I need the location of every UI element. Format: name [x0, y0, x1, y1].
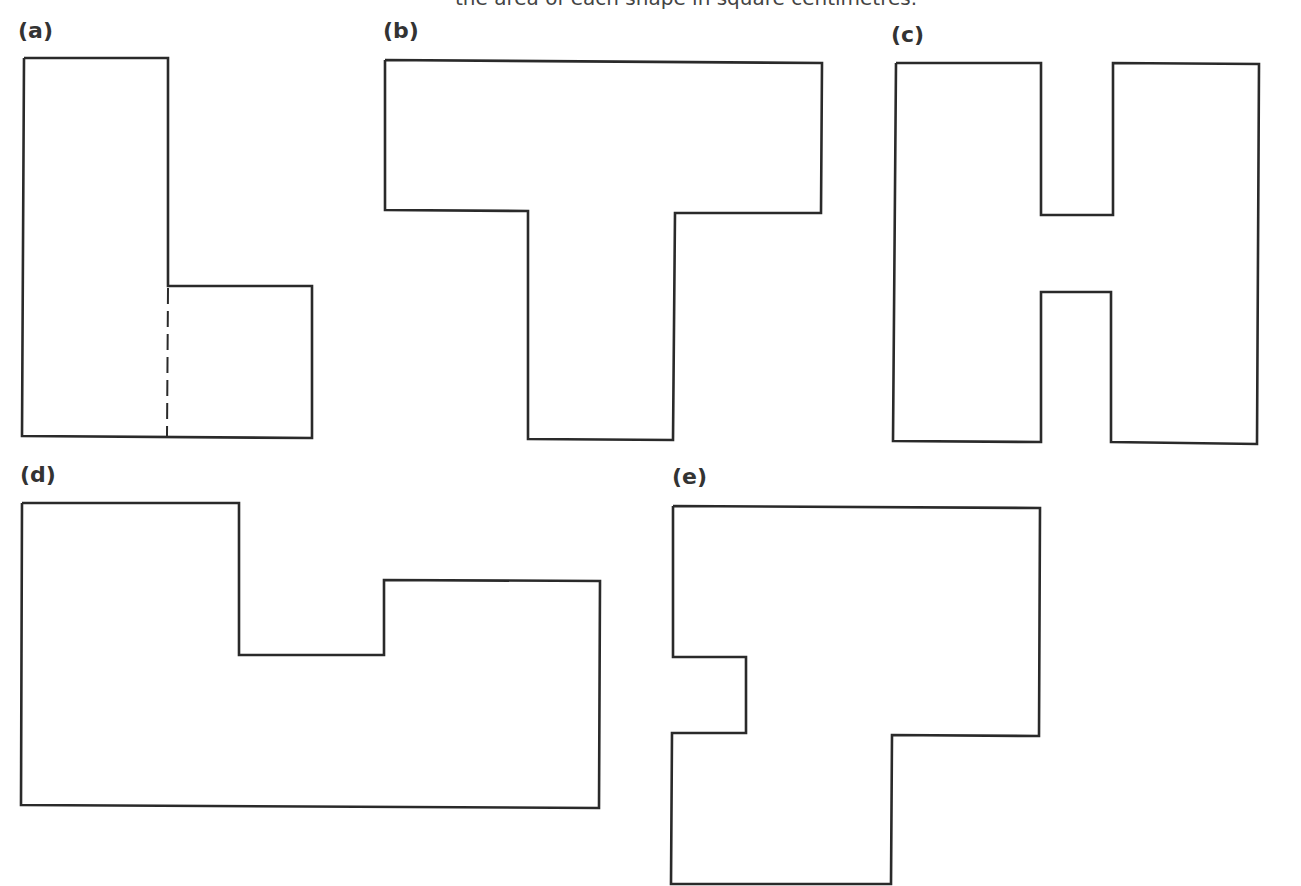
shapes-canvas [0, 0, 1301, 886]
shape-b-t-shape [385, 60, 822, 440]
shape-a-dashed-divider [167, 288, 168, 436]
shape-c-h-shape [893, 63, 1259, 444]
shape-d-notched-rectangle [21, 503, 600, 808]
shape-e-composite-shape [671, 506, 1040, 884]
